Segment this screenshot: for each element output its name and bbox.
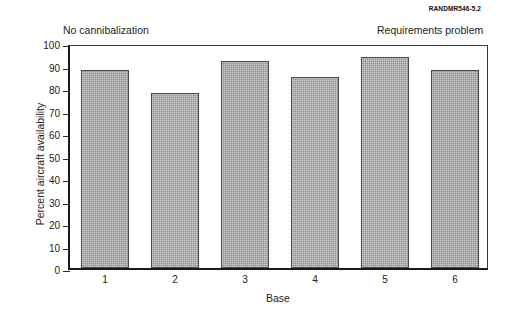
y-axis-tick-label: 100	[43, 40, 60, 51]
y-axis-title: Percent aircraft availability	[34, 64, 46, 264]
bar	[151, 93, 199, 269]
y-axis-tick: 60	[63, 136, 70, 137]
x-axis-tick-label: 2	[172, 274, 178, 285]
x-axis-tick-label: 1	[102, 274, 108, 285]
y-axis-tick-label: 10	[49, 243, 60, 254]
y-axis-tick: 100	[63, 46, 70, 47]
y-axis-tick: 90	[63, 69, 70, 70]
x-axis-tick-label: 6	[452, 274, 458, 285]
bar	[291, 77, 339, 268]
y-axis-tick: 20	[63, 226, 70, 227]
y-axis-tick-label: 20	[49, 220, 60, 231]
y-axis-tick-label: 80	[49, 85, 60, 96]
y-axis-tick-label: 40	[49, 175, 60, 186]
y-axis-tick: 80	[63, 91, 70, 92]
bar	[221, 61, 269, 268]
y-axis-tick: 30	[63, 204, 70, 205]
y-axis-tick-label: 70	[49, 108, 60, 119]
y-axis-tick-label: 90	[49, 63, 60, 74]
y-axis-tick-label: 0	[54, 265, 60, 276]
y-axis-tick-label: 50	[49, 153, 60, 164]
y-axis-tick: 10	[63, 249, 70, 250]
y-axis-tick-label: 30	[49, 198, 60, 209]
y-axis-tick: 40	[63, 181, 70, 182]
bar	[431, 70, 479, 268]
bar	[81, 70, 129, 268]
y-axis-tick-label: 60	[49, 130, 60, 141]
y-axis-tick: 50	[63, 159, 70, 160]
y-axis-tick: 0	[63, 271, 70, 272]
x-axis-title: Base	[68, 292, 488, 304]
x-axis-tick-label: 4	[312, 274, 318, 285]
x-axis-tick-label: 3	[242, 274, 248, 285]
plot-area: 0102030405060708090100123456	[68, 45, 488, 270]
y-axis-tick: 70	[63, 114, 70, 115]
x-axis-tick-label: 5	[382, 274, 388, 285]
bar-chart-figure: Percent aircraft availability 0102030405…	[0, 0, 505, 317]
bar	[361, 57, 409, 269]
